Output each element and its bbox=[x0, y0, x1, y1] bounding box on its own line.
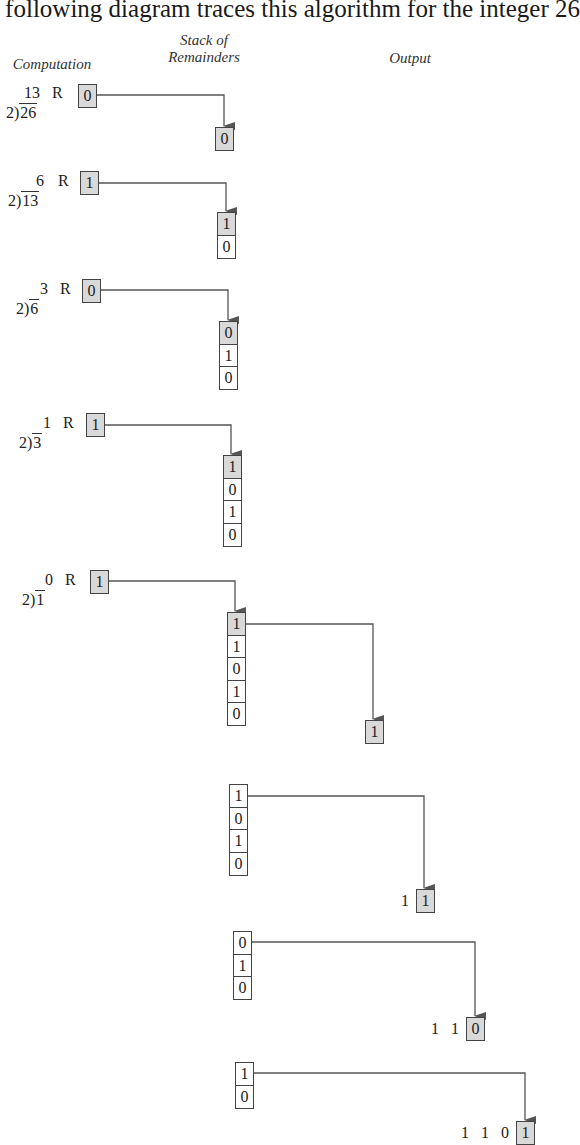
divisor: 2 bbox=[8, 192, 16, 209]
header-stack-line2: Remainders bbox=[154, 49, 254, 66]
output-prefix: 1 1 0 bbox=[461, 1121, 513, 1145]
output-4: 1 1 0 1 bbox=[440, 1121, 535, 1145]
remainder-stack-7: 0 1 0 bbox=[233, 931, 252, 1000]
pop-arrow-2 bbox=[248, 796, 424, 888]
header-computation: Computation bbox=[4, 56, 100, 73]
stack-cell: 0 bbox=[227, 657, 246, 681]
stack-cell: 1 bbox=[229, 829, 248, 853]
stack-cell: 0 bbox=[235, 1085, 254, 1109]
stack-cell: 0 bbox=[229, 807, 248, 831]
stack-cell: 0 bbox=[219, 366, 238, 390]
stack-cell: 1 bbox=[217, 212, 236, 236]
output-prefix: 1 1 bbox=[431, 1017, 463, 1041]
quotient: 0 bbox=[45, 571, 53, 589]
stack-cell: 1 bbox=[227, 680, 246, 704]
division-expression: 2)26 bbox=[6, 104, 37, 122]
remainder-stack-4: 1 0 1 0 bbox=[223, 455, 242, 547]
divisor: 2 bbox=[22, 591, 30, 608]
quotient: 13 bbox=[24, 84, 40, 102]
remainder-label: R bbox=[63, 414, 74, 432]
divisor: 2 bbox=[16, 300, 24, 317]
push-arrow-2 bbox=[99, 183, 226, 211]
stack-cell: 0 bbox=[233, 976, 252, 1000]
quotient: 6 bbox=[36, 172, 44, 190]
dividend: 3 bbox=[32, 433, 42, 451]
stack-cell: 1 bbox=[227, 612, 246, 636]
push-arrow-3 bbox=[101, 290, 228, 320]
quotient: 3 bbox=[40, 280, 48, 298]
header-computation-label: Computation bbox=[13, 56, 91, 72]
dividend: 6 bbox=[29, 299, 39, 317]
output-new-digit: 1 bbox=[365, 720, 384, 744]
division-expression: 2)1 bbox=[22, 591, 45, 609]
pop-arrow-3 bbox=[252, 942, 475, 1016]
remainder-label: R bbox=[58, 172, 69, 190]
dividend: 26 bbox=[19, 103, 37, 121]
output-new-digit: 1 bbox=[516, 1121, 535, 1145]
remainder-stack-6: 1 0 1 0 bbox=[229, 784, 248, 876]
division-expression: 2)13 bbox=[8, 192, 39, 210]
stack-cell: 0 bbox=[229, 852, 248, 876]
stack-cell: 1 bbox=[229, 784, 248, 808]
stack-cell: 1 bbox=[223, 500, 242, 524]
stack-cell: 0 bbox=[227, 702, 246, 726]
push-arrow-5 bbox=[108, 581, 235, 611]
remainder-box: 1 bbox=[86, 413, 105, 437]
dividend: 1 bbox=[35, 590, 45, 608]
stack-cell: 1 bbox=[227, 635, 246, 659]
output-new-digit: 1 bbox=[416, 889, 435, 913]
remainder-label: R bbox=[65, 571, 76, 589]
dividend: 13 bbox=[21, 191, 39, 209]
header-stack-line1: Stack of bbox=[154, 32, 254, 49]
divisor: 2 bbox=[19, 434, 27, 451]
output-new-digit: 0 bbox=[466, 1017, 485, 1041]
remainder-stack-8: 1 0 bbox=[235, 1062, 254, 1109]
division-expression: 2)3 bbox=[19, 434, 42, 452]
stack-cell: 0 bbox=[219, 321, 238, 345]
intro-text: The following diagram traces this algori… bbox=[0, 0, 580, 24]
remainder-stack-5: 1 1 0 1 0 bbox=[227, 612, 246, 726]
stack-cell: 1 bbox=[233, 954, 252, 978]
output-2: 1 1 bbox=[350, 889, 435, 913]
stack-cell: 0 bbox=[223, 478, 242, 502]
output-prefix: 1 bbox=[401, 889, 413, 913]
stack-cell: 1 bbox=[219, 344, 238, 368]
pop-arrow-1 bbox=[246, 624, 373, 719]
stack-cell: 0 bbox=[223, 523, 242, 547]
stack-cell: 0 bbox=[215, 127, 234, 151]
remainder-stack-1: 0 bbox=[215, 127, 234, 151]
stack-cell: 0 bbox=[217, 235, 236, 259]
quotient: 1 bbox=[43, 414, 51, 432]
stack-cell: 1 bbox=[235, 1062, 254, 1086]
remainder-stack-3: 0 1 0 bbox=[219, 321, 238, 390]
header-output: Output bbox=[380, 50, 440, 67]
output-3: 1 1 0 bbox=[400, 1017, 485, 1041]
division-expression: 2)6 bbox=[16, 300, 39, 318]
stack-cell: 1 bbox=[223, 455, 242, 479]
pop-arrow-4 bbox=[254, 1073, 525, 1120]
stack-cell: 0 bbox=[233, 931, 252, 955]
output-1: 1 bbox=[300, 720, 384, 744]
remainder-box: 1 bbox=[90, 570, 109, 594]
remainder-box: 1 bbox=[80, 171, 99, 195]
push-arrow-4 bbox=[104, 425, 231, 454]
header-stack: Stack of Remainders bbox=[154, 32, 254, 66]
header-output-label: Output bbox=[389, 50, 431, 66]
remainder-box: 0 bbox=[82, 279, 101, 303]
remainder-label: R bbox=[60, 280, 71, 298]
remainder-stack-2: 1 0 bbox=[217, 212, 236, 259]
divisor: 2 bbox=[6, 104, 14, 121]
remainder-box: 0 bbox=[78, 84, 97, 108]
remainder-label: R bbox=[52, 84, 63, 102]
push-arrow-1 bbox=[96, 95, 224, 126]
